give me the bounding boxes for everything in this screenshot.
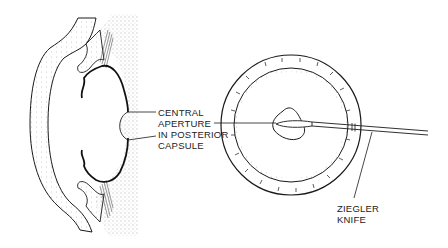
knife-label-line-2: KNIFE (337, 214, 379, 225)
eye-cross-section (30, 14, 138, 236)
aperture-label-line-4: CAPSULE (158, 140, 229, 151)
aperture-label-line-3: IN POSTERIOR (158, 129, 229, 140)
aperture-label-line-2: APERTURE (158, 118, 229, 129)
aperture-label: CENTRAL APERTURE IN POSTERIOR CAPSULE (158, 107, 229, 151)
aperture-label-line-1: CENTRAL (158, 107, 229, 118)
central-aperture (120, 112, 128, 140)
cornea (30, 18, 96, 232)
knife-label-line-1: ZIEGLER (337, 203, 379, 214)
knife-blade (276, 121, 312, 128)
knife-label: ZIEGLER KNIFE (337, 203, 379, 225)
